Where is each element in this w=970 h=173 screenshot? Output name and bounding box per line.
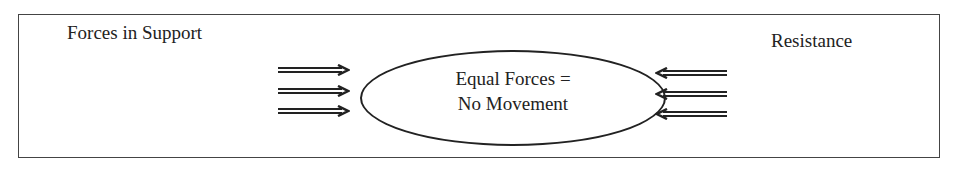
resistance-label: Resistance (771, 30, 852, 52)
right-arrow-icon (278, 105, 350, 117)
left-arrow-icon (655, 108, 727, 120)
center-line-2: No Movement (360, 91, 666, 116)
right-arrow-icon (278, 85, 350, 97)
center-line-1: Equal Forces = (360, 66, 666, 91)
left-arrow-icon (655, 67, 727, 79)
equilibrium-text: Equal Forces = No Movement (360, 66, 666, 116)
forces-in-support-label: Forces in Support (67, 22, 202, 44)
right-arrow-icon (278, 64, 350, 76)
left-arrow-icon (655, 88, 727, 100)
